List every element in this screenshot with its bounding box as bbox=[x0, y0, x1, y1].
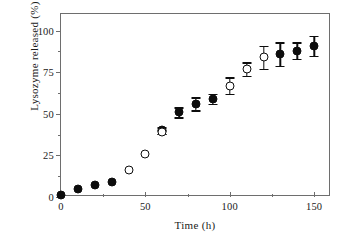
x-tick-mark bbox=[314, 192, 315, 197]
y-tick-label: 25 bbox=[43, 150, 54, 161]
filled-circle-marker bbox=[192, 99, 201, 108]
filled-circle-marker bbox=[107, 178, 116, 187]
filled-circle-marker bbox=[90, 181, 99, 190]
x-tick-label: 100 bbox=[222, 201, 238, 212]
y-minor-tick-mark bbox=[58, 93, 61, 94]
filled-circle-marker bbox=[175, 108, 184, 117]
plot-area: 0255075100 050100150 bbox=[60, 13, 330, 196]
error-bar-cap bbox=[225, 77, 234, 78]
y-tick-label: 0 bbox=[49, 192, 54, 203]
y-tick-label: 75 bbox=[43, 67, 54, 78]
x-tick-mark bbox=[230, 192, 231, 197]
error-bar-cap bbox=[276, 42, 285, 43]
open-circle-marker bbox=[225, 81, 234, 90]
error-bar-cap bbox=[310, 56, 319, 57]
y-tick-label: 100 bbox=[38, 25, 54, 36]
filled-circle-marker bbox=[276, 49, 285, 58]
filled-circle-marker bbox=[57, 191, 66, 200]
x-tick-label: 0 bbox=[58, 201, 63, 212]
error-bar-cap bbox=[293, 59, 302, 60]
x-minor-tick-mark bbox=[103, 194, 104, 197]
filled-circle-marker bbox=[73, 184, 82, 193]
x-tick-mark bbox=[145, 192, 146, 197]
x-minor-tick-mark bbox=[188, 194, 189, 197]
filled-circle-marker bbox=[310, 41, 319, 50]
y-tick-mark bbox=[56, 114, 61, 115]
x-tick-label: 50 bbox=[140, 201, 151, 212]
x-tick-label: 150 bbox=[306, 201, 322, 212]
open-circle-marker bbox=[242, 64, 251, 73]
y-minor-tick-mark bbox=[58, 51, 61, 52]
error-bar-cap bbox=[192, 110, 201, 111]
filled-circle-marker bbox=[293, 46, 302, 55]
x-axis-title: Time (h) bbox=[60, 219, 330, 231]
error-bar-cap bbox=[259, 69, 268, 70]
y-tick-mark bbox=[56, 72, 61, 73]
error-bar-cap bbox=[208, 104, 217, 105]
y-minor-tick-mark bbox=[58, 135, 61, 136]
open-circle-marker bbox=[124, 166, 133, 175]
y-axis-title: Lysozyme released (%) bbox=[28, 0, 40, 148]
error-bar-cap bbox=[225, 94, 234, 95]
open-circle-marker bbox=[141, 149, 150, 158]
error-bar-cap bbox=[175, 117, 184, 118]
y-tick-mark bbox=[56, 31, 61, 32]
error-bar-cap bbox=[276, 66, 285, 67]
error-bar-cap bbox=[242, 76, 251, 77]
x-minor-tick-mark bbox=[272, 194, 273, 197]
error-bar-cap bbox=[310, 36, 319, 37]
filled-circle-marker bbox=[208, 94, 217, 103]
error-bar-cap bbox=[293, 42, 302, 43]
y-tick-label: 50 bbox=[43, 108, 54, 119]
error-bar-cap bbox=[259, 46, 268, 47]
y-tick-mark bbox=[56, 155, 61, 156]
open-circle-marker bbox=[158, 128, 167, 137]
y-minor-tick-mark bbox=[58, 176, 61, 177]
open-circle-marker bbox=[259, 53, 268, 62]
chart-figure: 0255075100 050100150 Lysozyme released (… bbox=[0, 0, 347, 243]
